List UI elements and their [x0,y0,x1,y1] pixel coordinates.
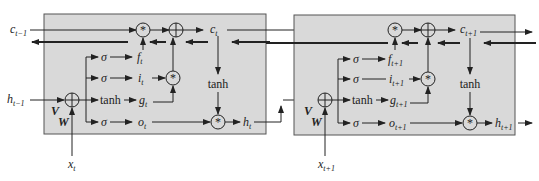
multiply-icon: * [140,23,146,37]
label-h-prev: ht−1 [7,92,25,108]
tanh-c: tanh [208,77,229,91]
tanh-c: tanh [460,77,481,91]
label-W: W [58,115,70,129]
lstm-diagram: ct−1 * ct ht−1 V W xt σ [0,0,539,181]
multiply-icon: * [467,116,473,130]
label-x-next: xt+1 [317,157,335,173]
cell-box [294,15,515,135]
tanh-g: tanh [100,93,121,107]
lstm-cell-t-plus-1: * ct+1 V W xt+1 σ ft+1 σ it+1 * [266,15,536,173]
tanh-g: tanh [352,93,373,107]
multiply-icon: * [392,23,398,37]
label-x-t: xt [67,157,76,173]
multiply-icon: * [215,115,221,129]
multiply-icon: * [425,72,431,86]
multiply-icon: * [170,71,176,85]
label-c-prev: ct−1 [10,22,27,38]
label-W: W [311,115,323,129]
cell-box [44,14,266,134]
